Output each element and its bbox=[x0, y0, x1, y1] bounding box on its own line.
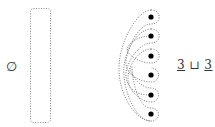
point-2 bbox=[148, 33, 153, 38]
point-5 bbox=[148, 92, 153, 97]
empty-region bbox=[31, 9, 51, 123]
points bbox=[148, 14, 153, 116]
point-3 bbox=[148, 53, 153, 58]
point-1 bbox=[148, 14, 153, 19]
point-4 bbox=[148, 72, 153, 77]
point-6 bbox=[148, 111, 153, 116]
loops bbox=[119, 10, 159, 121]
label-left: 3 bbox=[177, 58, 185, 72]
label-right: 3 bbox=[204, 58, 212, 72]
label-op: ⊔ bbox=[189, 58, 200, 72]
disjoint-union-label: 3 ⊔ 3 bbox=[177, 58, 213, 72]
empty-set-symbol: ∅ bbox=[6, 59, 17, 74]
